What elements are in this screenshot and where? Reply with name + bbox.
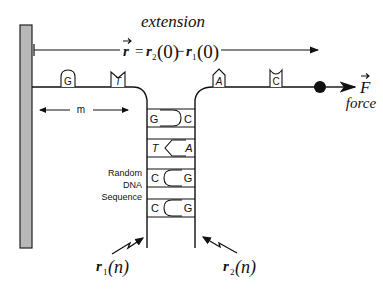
r1-pointer-arrow (112, 238, 143, 254)
svg-text:r: r (223, 258, 229, 274)
right-strand (195, 87, 316, 248)
base-G-top: G (61, 70, 75, 87)
base-A-top: A (213, 69, 225, 87)
svg-text:r: r (123, 43, 129, 59)
extension-title: extension (141, 12, 205, 31)
svg-text:=: = (135, 43, 143, 59)
svg-text:C: C (272, 76, 279, 87)
svg-text:2: 2 (230, 267, 235, 277)
svg-text:(0): (0) (197, 41, 219, 63)
svg-text:G: G (184, 202, 193, 214)
svg-text:1: 1 (103, 267, 108, 277)
base-T-top: T (111, 72, 125, 87)
r1-label: r 1 (n) (96, 257, 129, 278)
svg-text:Sequence: Sequence (101, 192, 142, 202)
base-pair-ladder (147, 109, 195, 217)
svg-text:1: 1 (192, 52, 197, 62)
svg-text:(n): (n) (235, 257, 256, 278)
svg-text:T: T (115, 76, 122, 87)
sequence-label: Random DNA Sequence (101, 168, 142, 202)
base-pair-TA: T A (152, 140, 193, 156)
base-C-top: C (270, 70, 282, 87)
svg-text:C: C (184, 113, 192, 125)
base-pair-CG-1: C G (151, 170, 192, 186)
svg-text:A: A (215, 76, 223, 87)
svg-text:G: G (184, 172, 193, 184)
svg-text:Random: Random (108, 168, 142, 178)
r2-pointer-arrow (203, 237, 237, 253)
svg-text:m: m (77, 104, 85, 115)
dna-unzipping-diagram: extension r = r 2 (0) − r 1 (0) G T A C (0, 0, 383, 295)
svg-text:DNA: DNA (123, 180, 142, 190)
svg-text:2: 2 (152, 52, 157, 62)
svg-text:C: C (151, 172, 159, 184)
svg-text:r: r (96, 258, 102, 274)
force-bead (314, 81, 326, 93)
svg-text:−: − (176, 43, 184, 59)
m-distance-arrow: m (40, 104, 128, 115)
force-label: force (346, 95, 377, 111)
svg-text:G: G (64, 76, 72, 87)
svg-text:A: A (184, 142, 192, 154)
extension-equation: r = r 2 (0) − r 1 (0) (123, 39, 219, 64)
base-pair-GC: G C (150, 110, 192, 126)
svg-text:T: T (152, 142, 160, 154)
svg-text:G: G (150, 113, 159, 125)
base-pair-CG-2: C G (151, 200, 192, 216)
r2-label: r 2 (n) (223, 257, 256, 278)
svg-text:C: C (151, 202, 159, 214)
svg-text:(n): (n) (108, 257, 129, 278)
wall-surface (20, 25, 32, 248)
